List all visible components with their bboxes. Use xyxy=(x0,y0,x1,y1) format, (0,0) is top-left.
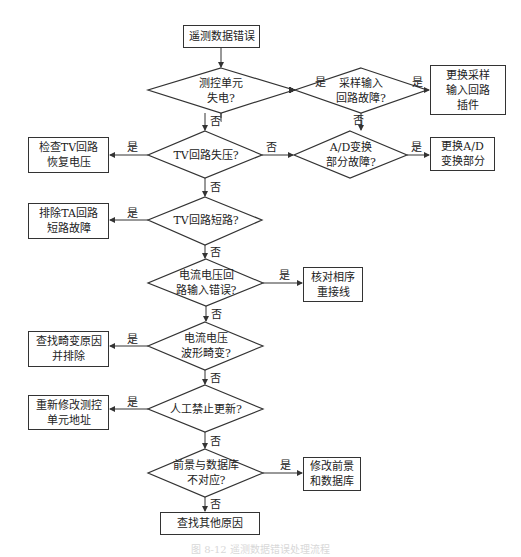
d6-no-label: 否 xyxy=(211,309,222,321)
end-label: 查找其他原因 xyxy=(177,516,243,531)
d9-no-label: 否 xyxy=(210,499,221,511)
decision-d3: TV回路失压? xyxy=(158,136,254,174)
decision-d1: 测控单元 失电? xyxy=(160,72,282,110)
d4-yes-label: 是 xyxy=(411,142,422,154)
d5-in-no-label: 否 xyxy=(210,182,221,194)
d6-yes-label: 是 xyxy=(279,270,290,282)
action-a4-label: 更换A/D 变换部分 xyxy=(441,139,485,169)
decision-d5-label: TV回路短路? xyxy=(173,213,238,228)
action-a8: 重新修改测控 单元地址 xyxy=(28,395,109,430)
figure-caption: 图 8-12 遥测数据错误处理流程 xyxy=(0,541,521,556)
d2-no-label: 否 xyxy=(353,115,364,127)
d5-yes-label: 是 xyxy=(127,208,138,220)
d3-no-label: 否 xyxy=(266,142,277,154)
action-a6-label: 核对相序 重接线 xyxy=(311,270,355,300)
action-a2: 更换采样 输入回路 插件 xyxy=(430,65,506,115)
decision-d8: 人工禁止更新? xyxy=(156,390,256,428)
action-a7: 查找畸变原因 并排除 xyxy=(28,331,109,367)
action-a5-label: 排除TA回路 短路故障 xyxy=(39,206,98,236)
d1-no-label: 否 xyxy=(210,116,221,128)
d7-no-label: 否 xyxy=(210,373,221,385)
d8-yes-label: 是 xyxy=(127,397,138,409)
end-box: 查找其他原因 xyxy=(160,512,260,535)
action-a9: 修改前景 和数据库 xyxy=(303,457,361,491)
action-a6: 核对相序 重接线 xyxy=(303,267,363,302)
action-a3: 检查TV回路 恢复电压 xyxy=(28,137,109,173)
decision-d9: 前景与数据库 不对应? xyxy=(156,454,256,492)
decision-d9-label: 前景与数据库 不对应? xyxy=(173,458,239,488)
decision-d5: TV回路短路? xyxy=(158,201,254,239)
decision-d6: 电流电压回 路输入错误? xyxy=(156,264,256,302)
action-a8-label: 重新修改测控 单元地址 xyxy=(36,398,102,428)
d9-yes-label: 是 xyxy=(280,460,291,472)
d8-no-label: 否 xyxy=(210,436,221,448)
decision-d7-label: 电流电压 波形畸变? xyxy=(181,331,231,361)
action-a5: 排除TA回路 短路故障 xyxy=(28,203,109,239)
decision-d7: 电流电压 波形畸变? xyxy=(156,327,256,365)
d7-yes-label: 是 xyxy=(127,334,138,346)
action-a4: 更换A/D 变换部分 xyxy=(430,137,495,171)
start-box: 遥测数据错误 xyxy=(183,25,260,48)
d5-no-label: 否 xyxy=(210,247,221,259)
decision-d3-label: TV回路失压? xyxy=(173,148,238,163)
decision-d4: A/D变换 部分故障? xyxy=(303,136,399,174)
action-a9-label: 修改前景 和数据库 xyxy=(310,459,354,489)
action-a3-label: 检查TV回路 恢复电压 xyxy=(39,140,98,170)
action-a7-label: 查找畸变原因 并排除 xyxy=(36,334,102,364)
d3-yes-label: 是 xyxy=(127,142,138,154)
start-label: 遥测数据错误 xyxy=(189,29,255,44)
decision-d1-label: 测控单元 失电? xyxy=(199,76,243,106)
d1-yes-label: 是 xyxy=(315,77,326,89)
d2-yes-label: 是 xyxy=(412,77,423,89)
decision-d4-label: A/D变换 部分故障? xyxy=(326,140,376,170)
action-a2-label: 更换采样 输入回路 插件 xyxy=(446,68,490,113)
decision-d2-label: 采样输入 回路故障? xyxy=(336,76,386,106)
decision-d8-label: 人工禁止更新? xyxy=(170,402,242,417)
decision-d6-label: 电流电压回 路输入错误? xyxy=(176,268,237,298)
